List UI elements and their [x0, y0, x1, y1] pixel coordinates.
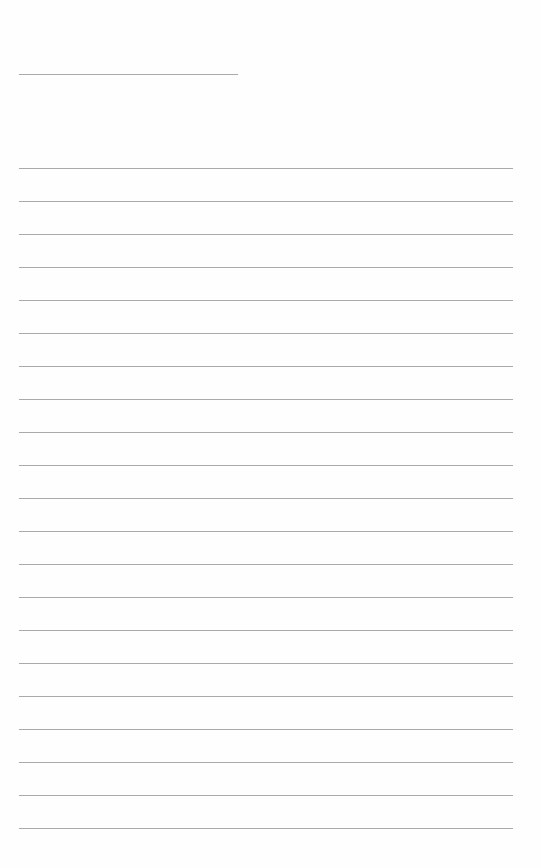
ruled-line	[19, 564, 513, 565]
ruled-line	[19, 729, 513, 730]
lined-paper-page	[0, 0, 542, 868]
ruled-line	[19, 795, 513, 796]
ruled-line	[19, 498, 513, 499]
ruled-line	[19, 432, 513, 433]
ruled-line	[19, 531, 513, 532]
ruled-line	[19, 168, 513, 169]
ruled-line	[19, 762, 513, 763]
ruled-line	[19, 399, 513, 400]
header-name-line	[19, 74, 238, 75]
ruled-line	[19, 828, 513, 829]
ruled-line	[19, 696, 513, 697]
ruled-line	[19, 201, 513, 202]
ruled-line	[19, 267, 513, 268]
ruled-line	[19, 630, 513, 631]
ruled-line	[19, 300, 513, 301]
ruled-line	[19, 234, 513, 235]
ruled-line	[19, 465, 513, 466]
ruled-line	[19, 663, 513, 664]
ruled-line	[19, 333, 513, 334]
ruled-line	[19, 366, 513, 367]
ruled-line	[19, 597, 513, 598]
